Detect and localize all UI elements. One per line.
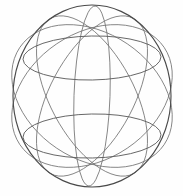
sphere-figure-container: Sphere wireframe line drawing A hand-dra… (0, 0, 183, 196)
sphere-wireframe-svg (0, 0, 183, 196)
